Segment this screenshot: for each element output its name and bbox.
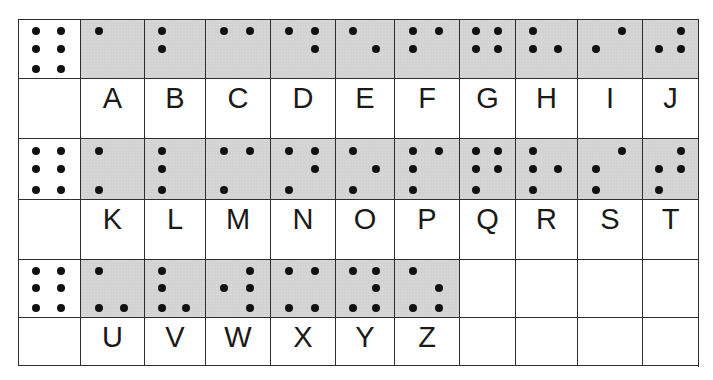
braille-dot-1 (95, 267, 103, 275)
braille-dot-2 (592, 165, 600, 173)
braille-cell-h (515, 19, 577, 78)
letter-label: G (460, 82, 515, 114)
braille-dot-1 (349, 267, 357, 275)
key-cell-six-dots (18, 259, 80, 317)
letter-label: P (395, 203, 459, 235)
braille-cell-k (80, 138, 144, 199)
letter-cell-w: W (205, 317, 270, 365)
braille-cell-r (515, 138, 577, 199)
braille-dot-3 (32, 304, 40, 312)
braille-cell-x (270, 259, 335, 317)
braille-dot-3 (655, 186, 663, 194)
braille-dot-1 (32, 147, 40, 155)
braille-dot-3 (95, 186, 103, 194)
braille-cell-s (577, 138, 642, 199)
braille-dot-2 (32, 45, 40, 53)
braille-dot-5 (677, 165, 685, 173)
braille-dot-4 (57, 267, 65, 275)
letter-label: V (145, 321, 205, 353)
key-cell-six-dots (18, 19, 80, 78)
letter-label: Y (336, 321, 394, 353)
braille-dot-4 (246, 147, 254, 155)
braille-dot-2 (32, 284, 40, 292)
letter-label: U (81, 321, 144, 353)
braille-dot-5 (57, 165, 65, 173)
braille-dot-6 (372, 304, 380, 312)
letter-label: L (145, 203, 205, 235)
letter-label: R (516, 203, 577, 235)
empty-cell (577, 317, 642, 365)
braille-dot-1 (95, 147, 103, 155)
braille-dot-3 (32, 186, 40, 194)
braille-dot-4 (677, 147, 685, 155)
braille-dot-6 (182, 304, 190, 312)
letter-cell-t: T (642, 199, 698, 259)
braille-dot-6 (57, 186, 65, 194)
braille-dot-6 (120, 304, 128, 312)
letter-cell-d: D (270, 78, 335, 138)
braille-dot-6 (57, 304, 65, 312)
braille-dot-5 (372, 284, 380, 292)
braille-dot-4 (311, 147, 319, 155)
braille-cell-p (394, 138, 459, 199)
braille-dot-3 (592, 186, 600, 194)
empty-cell (515, 317, 577, 365)
braille-dot-5 (554, 45, 562, 53)
braille-dot-4 (372, 267, 380, 275)
braille-dot-2 (529, 45, 537, 53)
braille-dot-5 (311, 45, 319, 53)
braille-dot-4 (246, 267, 254, 275)
braille-cell-n (270, 138, 335, 199)
braille-dot-4 (311, 267, 319, 275)
braille-dot-2 (472, 45, 480, 53)
braille-dot-5 (311, 165, 319, 173)
braille-dot-6 (57, 65, 65, 73)
braille-dot-2 (32, 165, 40, 173)
braille-dot-3 (409, 304, 417, 312)
letter-cell-j: J (642, 78, 698, 138)
braille-dot-1 (409, 267, 417, 275)
empty-cell (459, 259, 515, 317)
letter-cell-i: I (577, 78, 642, 138)
braille-dot-4 (618, 27, 626, 35)
braille-dot-2 (655, 165, 663, 173)
letter-label: N (271, 203, 335, 235)
letter-label: Z (395, 321, 459, 353)
braille-dot-6 (311, 304, 319, 312)
letter-cell-h: H (515, 78, 577, 138)
letter-cell-o: O (335, 199, 394, 259)
braille-dot-3 (349, 186, 357, 194)
grid-border-right (698, 19, 700, 367)
letter-label: B (145, 82, 205, 114)
braille-dot-4 (246, 27, 254, 35)
braille-cell-q (459, 138, 515, 199)
braille-dot-1 (285, 147, 293, 155)
braille-dot-5 (494, 165, 502, 173)
braille-dot-1 (409, 147, 417, 155)
letter-cell-a: A (80, 78, 144, 138)
braille-dot-2 (158, 45, 166, 53)
braille-dot-4 (311, 27, 319, 35)
braille-cell-d (270, 19, 335, 78)
letter-label: I (578, 82, 642, 114)
braille-cell-b (144, 19, 205, 78)
letter-label: T (643, 203, 698, 235)
letter-label: Q (460, 203, 515, 235)
braille-cell-z (394, 259, 459, 317)
braille-dot-6 (246, 304, 254, 312)
braille-dot-2 (158, 284, 166, 292)
braille-dot-5 (57, 284, 65, 292)
braille-cell-e (335, 19, 394, 78)
braille-dot-1 (220, 27, 228, 35)
braille-dot-1 (529, 27, 537, 35)
letter-cell-g: G (459, 78, 515, 138)
letter-label: F (395, 82, 459, 114)
braille-cell-a (80, 19, 144, 78)
braille-dot-5 (677, 45, 685, 53)
braille-dot-1 (158, 27, 166, 35)
empty-cell (642, 259, 698, 317)
empty-cell (515, 259, 577, 317)
letter-cell-c: C (205, 78, 270, 138)
braille-dot-5 (246, 284, 254, 292)
braille-dot-2 (409, 165, 417, 173)
